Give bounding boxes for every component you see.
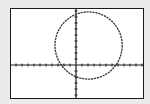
graph-plot — [0, 0, 150, 104]
axis-ticks — [16, 11, 142, 95]
circle-curve — [55, 12, 122, 79]
